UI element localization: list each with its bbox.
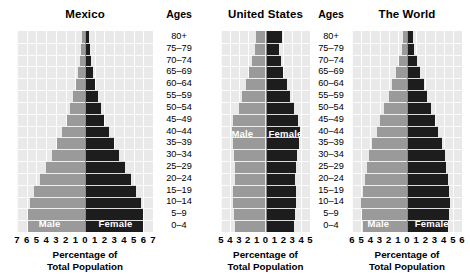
bar-female <box>85 185 136 197</box>
x-axis-tick-label: 2 <box>245 234 250 245</box>
chart-panel-united-states: United States MaleFemale 54321012345 Per… <box>221 0 310 280</box>
x-axis-label-line1: Percentage of <box>352 249 462 261</box>
legend-female: Female <box>269 128 303 139</box>
x-axis-label-line1: Percentage of <box>221 249 310 261</box>
bar-male <box>46 161 85 173</box>
bar-female <box>407 137 442 149</box>
bar-male <box>399 55 407 67</box>
bar-male <box>361 197 407 209</box>
population-pyramid-figure: Mexico MaleFemale 765432101234567 Percen… <box>0 0 470 280</box>
age-group-label: 25–29 <box>310 161 352 171</box>
vertical-gridline <box>221 31 222 232</box>
bars-container-the-world: MaleFemale <box>352 31 462 232</box>
plot-area-the-world: MaleFemale <box>352 31 462 232</box>
bar-female <box>266 149 297 161</box>
bar-female <box>266 137 300 149</box>
bar-male <box>365 173 407 185</box>
bar-male <box>235 173 265 185</box>
bar-male <box>249 66 265 78</box>
x-axis-tick-label: 4 <box>298 234 303 245</box>
x-axis-label-united-states: Percentage of Total Population <box>221 249 310 273</box>
x-axis-tick-label: 5 <box>218 234 223 245</box>
bar-male <box>73 90 85 102</box>
bar-female <box>407 149 445 161</box>
chart-title-united-states: United States <box>221 8 310 20</box>
bar-male <box>363 185 407 197</box>
vertical-gridline <box>17 31 18 232</box>
x-axis-tick-label: 3 <box>111 234 116 245</box>
x-axis-tick-label: 3 <box>377 234 382 245</box>
plot-area-mexico: MaleFemale <box>17 31 153 232</box>
bar-female <box>266 220 294 232</box>
bar-female <box>407 173 448 185</box>
bar-female <box>266 43 279 55</box>
legend-female: Female <box>415 218 449 229</box>
x-axis-tick-label: 6 <box>141 234 146 245</box>
x-axis-tick-label: 5 <box>359 234 364 245</box>
bar-female <box>407 185 449 197</box>
x-axis-tick-label: 4 <box>43 234 48 245</box>
x-axis-ticks-the-world: 6543210123456 <box>352 234 462 247</box>
bar-female <box>407 114 435 126</box>
age-group-label: 65–69 <box>310 66 352 76</box>
vertical-gridline <box>352 31 353 232</box>
age-group-label: 40–44 <box>153 126 205 136</box>
age-group-label: 65–69 <box>153 66 205 76</box>
bar-female <box>266 208 295 220</box>
bar-male <box>367 161 407 173</box>
chart-panel-the-world: The World MaleFemale 6543210123456 Perce… <box>352 0 462 280</box>
bar-male <box>34 185 85 197</box>
bar-male <box>256 31 266 43</box>
x-axis-tick-label: 2 <box>386 234 391 245</box>
chart-panel-mexico: Mexico MaleFemale 765432101234567 Percen… <box>17 0 153 280</box>
bar-male <box>239 102 266 114</box>
bar-male <box>57 137 85 149</box>
bar-male <box>372 137 407 149</box>
bar-female <box>266 185 296 197</box>
bar-female <box>407 126 438 138</box>
legend-male: Male <box>367 218 389 229</box>
age-group-label: 45–49 <box>310 114 352 124</box>
x-axis-label-line2: Total Population <box>17 261 153 273</box>
chart-title-the-world: The World <box>352 8 462 20</box>
bar-female <box>266 31 282 43</box>
age-group-label: 80+ <box>153 31 205 41</box>
x-axis-tick-label: 4 <box>227 234 232 245</box>
age-group-label: 20–24 <box>310 173 352 183</box>
age-group-label: 10–14 <box>153 196 205 206</box>
bar-male <box>369 149 407 161</box>
bar-female <box>407 55 417 67</box>
bar-female <box>266 90 291 102</box>
age-group-label: 75–79 <box>153 43 205 53</box>
x-axis-label-mexico: Percentage of Total Population <box>17 249 153 273</box>
x-axis-label-line1: Percentage of <box>17 249 153 261</box>
ages-column-1: Ages 80+75–7970–7465–6960–6455–5950–5445… <box>153 0 205 280</box>
bars-container-mexico: MaleFemale <box>17 31 153 232</box>
bar-female <box>85 126 109 138</box>
x-axis-tick-label: 2 <box>102 234 107 245</box>
age-group-label: 60–64 <box>153 78 205 88</box>
center-axis-line <box>266 31 267 232</box>
x-axis-tick-label: 5 <box>131 234 136 245</box>
age-group-label: 45–49 <box>153 114 205 124</box>
bar-male <box>233 114 265 126</box>
x-axis-tick-label: 3 <box>53 234 58 245</box>
bar-female <box>266 197 296 209</box>
age-group-label: 70–74 <box>153 55 205 65</box>
bar-male <box>242 90 265 102</box>
x-axis-tick-label: 4 <box>368 234 373 245</box>
bar-male <box>76 78 85 90</box>
bar-male <box>377 126 407 138</box>
bar-male <box>78 66 85 78</box>
bar-male <box>392 78 407 90</box>
bar-female <box>266 102 294 114</box>
bar-female <box>407 78 424 90</box>
x-axis-tick-label: 2 <box>281 234 286 245</box>
bars-container-united-states: MaleFemale <box>221 31 310 232</box>
x-axis-tick-label: 2 <box>423 234 428 245</box>
x-axis-label-the-world: Percentage of Total Population <box>352 249 462 273</box>
bar-female <box>407 66 420 78</box>
bar-female <box>407 161 446 173</box>
x-axis-ticks-mexico: 765432101234567 <box>17 234 153 247</box>
ages-header-2: Ages <box>310 8 352 20</box>
